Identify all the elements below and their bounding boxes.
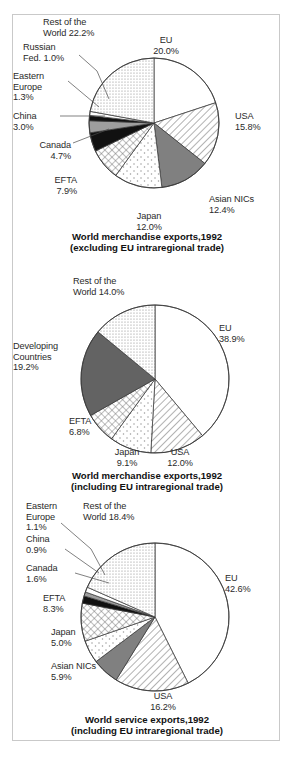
pie-2-label-eu: EU 38.9% [219,323,275,344]
pie-chart-merchandise-excluding-eu: EU 20.0% USA 15.8% Asian NICs 12.4% Japa… [13,15,281,261]
pie-3-label-japan: Japan 5.0% [51,627,99,648]
pie-1-label-russian-fed: Russian Fed. 1.0% [23,42,85,63]
pie-1-label-asian-nics: Asian NICs 12.4% [209,194,273,215]
pie-1-title-line2: (excluding EU intraregional trade) [70,242,224,253]
pie-3-label-efta: EFTA 8.3% [43,593,93,614]
pie-1-label-canada: Canada 4.7% [13,140,71,161]
pie-3-label-rest-of-world: Rest of the World 18.4% [83,501,163,522]
leader-line-1 [68,81,99,107]
pie-slice-rest-of-the-world [90,58,154,123]
pie-1-label-japan: Japan 12.0% [125,211,173,232]
figure-frame: EU 20.0% USA 15.8% Asian NICs 12.4% Japa… [12,14,280,741]
pie-3-title-line1: World service exports,1992 [85,714,209,725]
pie-1-label-rest-of-world: Rest of the World 22.2% [43,17,119,38]
pie-2-title-line2: (including EU intraregional trade) [71,481,223,492]
pie-chart-services-including-eu: EU 42.6% USA 16.2% Asian NICs 5.9% Japan… [13,501,281,741]
pie-3-label-usa: USA 16.2% [137,691,189,712]
pie-3-label-china: China 0.9% [26,534,76,555]
pie-3-label-eastern-europe: Eastern Europe 1.1% [26,501,78,533]
pie-3-title-line2: (including EU intraregional trade) [71,725,223,736]
pie-1-label-eastern-europe: Eastern Europe 1.3% [13,71,67,103]
pie-1-title-line1: World merchandise exports,1992 [72,231,222,242]
pie-1-label-usa: USA 15.8% [235,111,281,132]
pie-2-label-rest-of-world: Rest of the World 14.0% [73,276,149,297]
pie-2-title-line1: World merchandise exports,1992 [72,470,222,481]
pie-3-label-eu: EU 42.6% [225,573,275,594]
pie-3-title: World service exports,1992(including EU … [13,714,281,737]
pie-3-label-asian-nics: Asian NICs 5.9% [51,661,115,682]
pie-1-title: World merchandise exports,1992(excluding… [13,231,281,254]
pie-1-label-efta: EFTA 7.9% [21,175,77,196]
pie-2-label-developing-countries: Developing Countries 19.2% [13,341,81,373]
pie-1-label-china: China 3.0% [13,111,69,132]
pie-2-title: World merchandise exports,1992(including… [13,470,281,493]
pie-2-label-usa: USA 12.0% [154,447,206,468]
pie-1-label-eu: EU 20.0% [131,35,201,56]
pie-chart-merchandise-including-eu: EU 38.9% USA 12.0% Japan 9.1% EFTA 6.8% … [13,261,281,501]
pie-3-label-canada: Canada 1.6% [26,563,80,584]
pie-2-label-japan: Japan 9.1% [103,447,151,468]
pie-2-label-efta: EFTA 6.8% [69,416,119,437]
